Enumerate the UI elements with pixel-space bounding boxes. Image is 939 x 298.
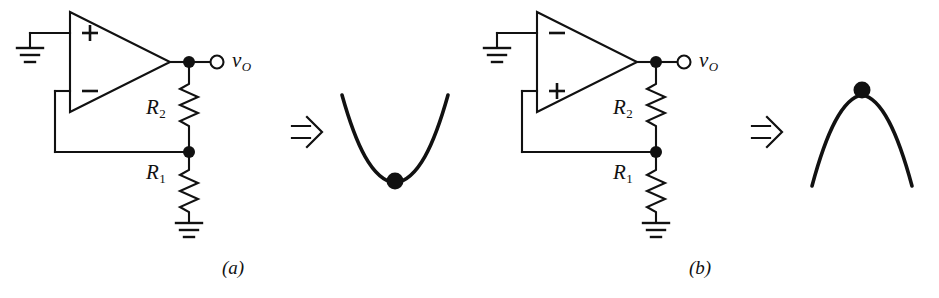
stability-curve-valley-a	[342, 95, 448, 190]
resistor-label-r1-b: R1	[613, 162, 633, 185]
caption-panel-a: (a)	[213, 258, 253, 277]
ball-marker-hill	[854, 82, 871, 99]
resistor-r2-a	[180, 68, 198, 152]
mid-node-dot-b	[650, 146, 662, 158]
circuit-diagram-canvas	[0, 0, 939, 298]
output-node-dot-a	[183, 56, 195, 68]
resistor-label-r2-b: R2	[613, 97, 633, 120]
panel-b-circuit	[484, 12, 691, 237]
implies-arrow-a	[292, 117, 322, 147]
output-node-dot-b	[650, 56, 662, 68]
resistor-r1-a	[180, 158, 198, 222]
output-label-b: vO	[699, 50, 718, 73]
resistor-r1-b	[647, 158, 665, 222]
resistor-label-r2-a: R2	[146, 97, 166, 120]
resistor-r2-b	[647, 68, 665, 152]
mid-node-dot-a	[183, 146, 195, 158]
stability-curve-hill-b	[812, 82, 912, 187]
output-label-a: vO	[232, 50, 251, 73]
implies-arrow-b	[752, 117, 782, 147]
panel-a-circuit	[17, 12, 224, 237]
output-terminal-circle-b	[678, 56, 691, 69]
output-terminal-circle-a	[211, 56, 224, 69]
figure-container: vO R2 R1 (a) vO R2 R1 (b)	[0, 0, 939, 298]
hill-curve-path	[812, 95, 912, 186]
caption-panel-b: (b)	[680, 258, 720, 277]
resistor-label-r1-a: R1	[146, 162, 166, 185]
valley-curve-path	[342, 95, 448, 183]
ball-marker-valley	[387, 173, 404, 190]
